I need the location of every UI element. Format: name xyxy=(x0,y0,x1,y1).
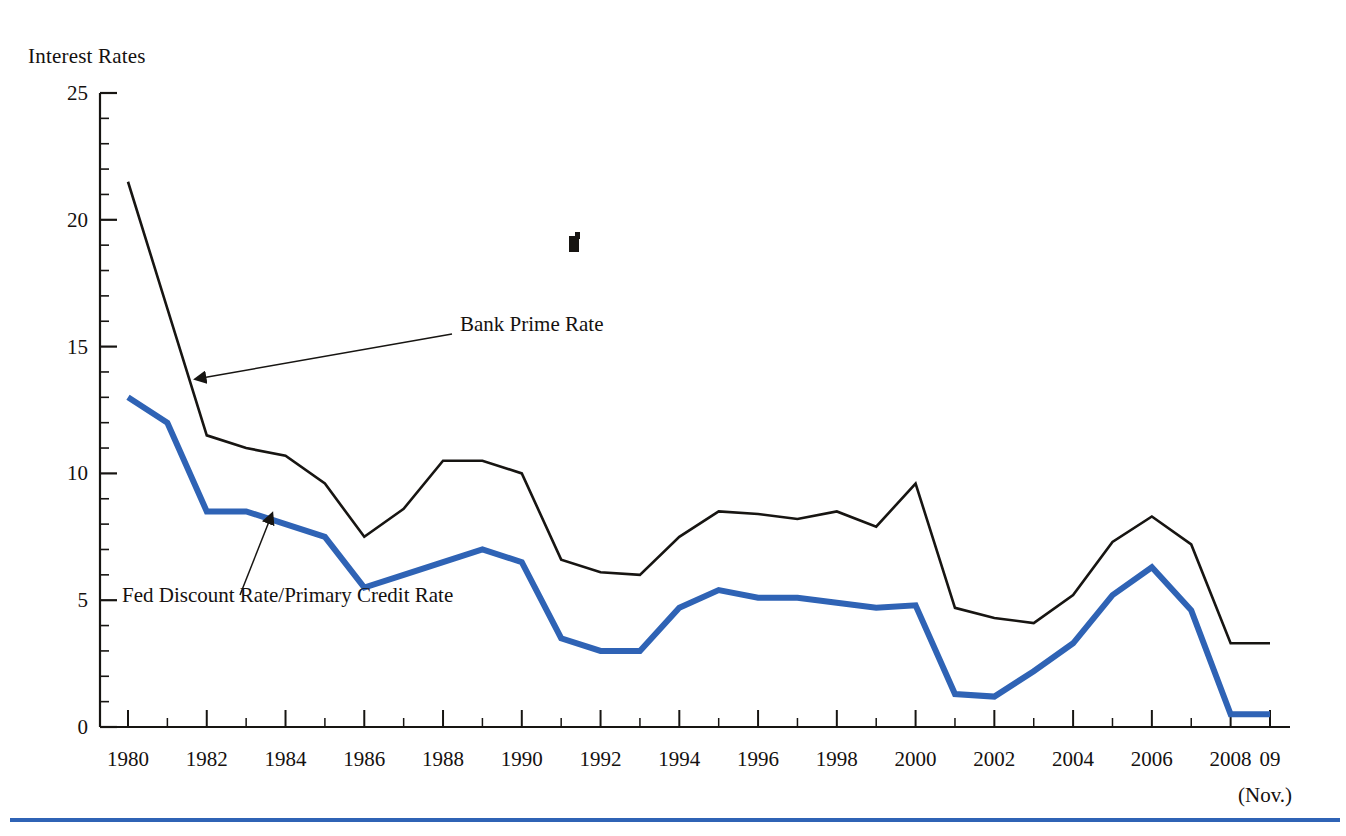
x-tick-label-1984: 1984 xyxy=(265,747,307,772)
interest-rates-figure: Interest Rates 0510152025 19801982198419… xyxy=(0,0,1346,836)
x-tick-label-1982: 1982 xyxy=(186,747,228,772)
line-chart-canvas xyxy=(0,0,1346,836)
x-tick-label-2000: 2000 xyxy=(895,747,937,772)
x-tick-label-1996: 1996 xyxy=(737,747,779,772)
x-tick-label-1988: 1988 xyxy=(422,747,464,772)
annotation-fed-discount-rate: Fed Discount Rate/Primary Credit Rate xyxy=(122,583,453,608)
chart-axes xyxy=(100,93,1290,727)
y-tick-label-0: 0 xyxy=(42,715,88,740)
y-tick-label-5: 5 xyxy=(42,588,88,613)
x-tick-label-1990: 1990 xyxy=(501,747,543,772)
x-tick-label-1980: 1980 xyxy=(107,747,149,772)
x-tick-label-1994: 1994 xyxy=(658,747,700,772)
chart-annotations xyxy=(196,334,452,595)
x-tick-label-1986: 1986 xyxy=(343,747,385,772)
x-tick-label-1998: 1998 xyxy=(816,747,858,772)
x-tick-label-1992: 1992 xyxy=(580,747,622,772)
y-tick-label-25: 25 xyxy=(42,81,88,106)
scan-artifact-speck-2 xyxy=(575,232,580,239)
x-tick-label-2006: 2006 xyxy=(1131,747,1173,772)
chart-series xyxy=(128,182,1270,715)
annotation-bank-prime-rate: Bank Prime Rate xyxy=(460,312,603,337)
y-tick-label-15: 15 xyxy=(42,334,88,359)
x-tick-label-2002: 2002 xyxy=(973,747,1015,772)
x-tick-label-2008: 2008 xyxy=(1210,747,1252,772)
x-tick-label-2004: 2004 xyxy=(1052,747,1094,772)
x-tick-label-09: 09 xyxy=(1260,747,1281,772)
y-tick-label-20: 20 xyxy=(42,207,88,232)
x-axis-note: (Nov.) xyxy=(1238,783,1292,808)
y-axis-title: Interest Rates xyxy=(28,44,146,69)
y-tick-label-10: 10 xyxy=(42,461,88,486)
page-bottom-rule xyxy=(10,818,1340,822)
